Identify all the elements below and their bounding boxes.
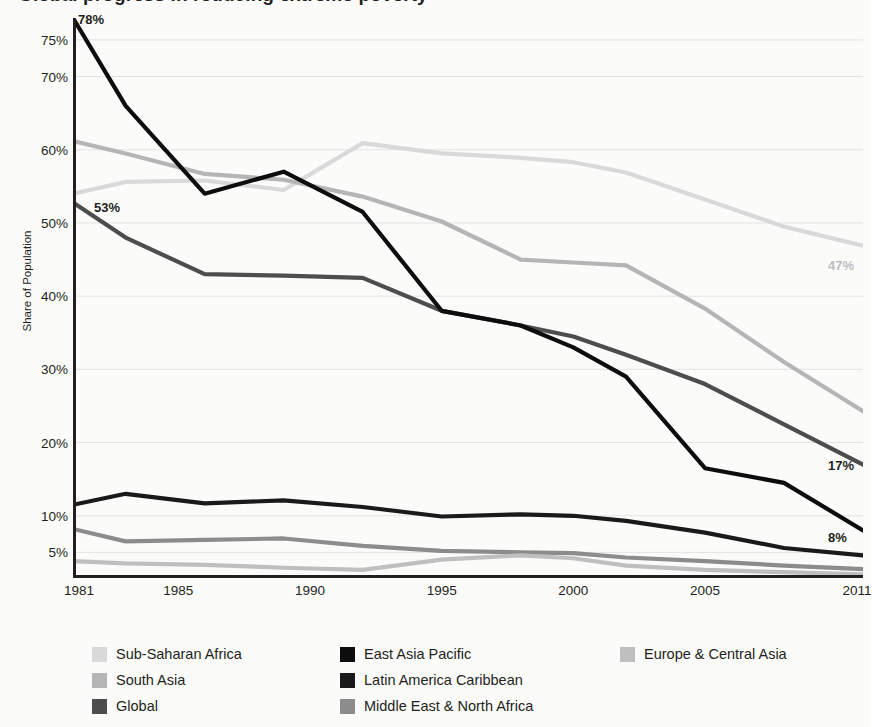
legend-swatch-icon: [92, 647, 107, 662]
legend-item-label: Sub-Saharan Africa: [116, 646, 242, 662]
legend-item-label: Middle East & North Africa: [364, 698, 533, 714]
data-label-8pct: 8%: [828, 530, 847, 545]
legend-item-label: Europe & Central Asia: [644, 646, 787, 662]
y-tick-label: 5%: [8, 545, 68, 560]
legend-item-latin-america-caribbean[interactable]: Latin America Caribbean: [340, 667, 533, 693]
y-tick-label: 10%: [8, 508, 68, 523]
data-label-17pct: 17%: [828, 458, 854, 473]
legend-item-sub-saharan-africa[interactable]: Sub-Saharan Africa: [92, 641, 242, 667]
x-tick-label: 1985: [163, 583, 193, 598]
y-tick-label: 40%: [8, 289, 68, 304]
y-axis-tick-labels: 5%10%20%30%40%50%60%70%75%: [0, 18, 68, 578]
page-title: Global progress in reducing extreme pove…: [18, 0, 428, 6]
legend-swatch-icon: [340, 647, 355, 662]
data-label-47pct: 47%: [828, 258, 854, 273]
y-tick-label: 50%: [8, 215, 68, 230]
y-tick-label: 20%: [8, 435, 68, 450]
y-tick-label: 60%: [8, 142, 68, 157]
y-tick-label: 70%: [8, 69, 68, 84]
axis-lines: [73, 18, 863, 578]
legend-swatch-icon: [340, 673, 355, 688]
legend-item-label: Latin America Caribbean: [364, 672, 523, 688]
x-tick-label: 2000: [558, 583, 588, 598]
data-label-53pct: 53%: [94, 200, 120, 215]
legend-swatch-icon: [340, 699, 355, 714]
x-axis-tick-labels: 1981198519901995200020052011: [73, 583, 863, 607]
legend-swatch-icon: [92, 673, 107, 688]
legend-item-east-asia-pacific[interactable]: East Asia Pacific: [340, 641, 533, 667]
legend-column: Europe & Central Asia: [620, 641, 787, 667]
series-line-east-asia-pacific: [73, 18, 863, 530]
chart-svg: [73, 18, 863, 578]
series-line-latin-america-caribbean: [73, 494, 863, 555]
legend-item-label: South Asia: [116, 672, 185, 688]
legend-item-global[interactable]: Global: [92, 693, 242, 719]
legend-item-south-asia[interactable]: South Asia: [92, 667, 242, 693]
legend-swatch-icon: [92, 699, 107, 714]
y-tick-label: 30%: [8, 362, 68, 377]
legend-swatch-icon: [620, 647, 635, 662]
x-tick-label: 1981: [64, 583, 94, 598]
x-tick-label: 1995: [427, 583, 457, 598]
legend-item-label: Global: [116, 698, 158, 714]
legend-column: East Asia PacificLatin America Caribbean…: [340, 641, 533, 719]
legend-item-europe-central-asia[interactable]: Europe & Central Asia: [620, 641, 787, 667]
data-label-78pct: 78%: [78, 12, 104, 27]
y-tick-label: 75%: [8, 32, 68, 47]
plot-area: [73, 18, 863, 578]
legend-item-middle-east-north-africa[interactable]: Middle East & North Africa: [340, 693, 533, 719]
x-tick-label: 2005: [690, 583, 720, 598]
chart-legend: Sub-Saharan AfricaSouth AsiaGlobalEast A…: [92, 641, 862, 721]
x-tick-label: 1990: [295, 583, 325, 598]
x-tick-label: 2011: [842, 583, 871, 598]
series-line-sub-saharan-africa: [73, 143, 863, 245]
legend-item-label: East Asia Pacific: [364, 646, 471, 662]
legend-column: Sub-Saharan AfricaSouth AsiaGlobal: [92, 641, 242, 719]
